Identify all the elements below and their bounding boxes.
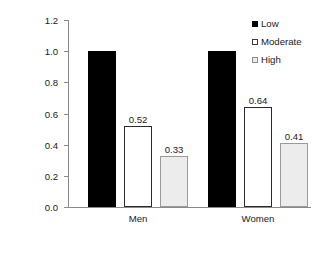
legend-label-moderate: Moderate	[261, 36, 302, 47]
bar-women-high[interactable]: 0.41	[280, 143, 308, 207]
bar-men-low[interactable]	[88, 51, 116, 207]
legend: Low Moderate High	[252, 16, 302, 70]
y-tick-1.0: 1.0	[64, 51, 68, 52]
bar-value-women-moderate: 0.64	[249, 95, 268, 106]
bar-men-moderate[interactable]: 0.52	[124, 126, 152, 207]
y-tick-0.8: 0.8	[64, 82, 68, 83]
y-tick-0.4: 0.4	[64, 145, 68, 146]
legend-label-high: High	[261, 54, 281, 65]
y-tick-label-0.2: 0.2	[45, 170, 58, 181]
x-axis-label-women: Women	[242, 213, 275, 224]
legend-item-moderate[interactable]: Moderate	[252, 34, 302, 49]
bar-value-men-high: 0.33	[165, 144, 184, 155]
legend-item-high[interactable]: High	[252, 52, 302, 67]
legend-swatch-moderate-icon	[252, 39, 258, 45]
legend-swatch-low-icon	[252, 21, 258, 27]
y-tick-0.2: 0.2	[64, 176, 68, 177]
legend-label-low: Low	[261, 18, 279, 29]
y-tick-0.6: 0.6	[64, 114, 68, 115]
y-tick-label-1.0: 1.0	[45, 46, 58, 57]
y-tick-1.2: 1.2	[64, 20, 68, 21]
legend-swatch-high-icon	[252, 57, 258, 63]
y-tick-label-0.0: 0.0	[45, 202, 58, 213]
y-axis-line	[68, 20, 69, 207]
bar-value-women-high: 0.41	[285, 131, 304, 142]
y-tick-label-0.6: 0.6	[45, 108, 58, 119]
y-tick-label-0.4: 0.4	[45, 139, 58, 150]
legend-item-low[interactable]: Low	[252, 16, 302, 31]
hazard-ratio-bar-chart: Hazard ratio for hospitalisation or deat…	[0, 0, 331, 253]
bar-women-moderate[interactable]: 0.64	[244, 107, 272, 207]
bar-men-high[interactable]: 0.33	[160, 156, 188, 207]
y-tick-label-1.2: 1.2	[45, 15, 58, 26]
y-tick-0.0: 0.0	[64, 207, 68, 208]
bar-women-low[interactable]	[208, 51, 236, 207]
y-tick-label-0.8: 0.8	[45, 77, 58, 88]
x-axis-label-men: Men	[129, 213, 148, 224]
bar-value-men-moderate: 0.52	[129, 114, 148, 125]
x-axis-line	[68, 207, 311, 208]
